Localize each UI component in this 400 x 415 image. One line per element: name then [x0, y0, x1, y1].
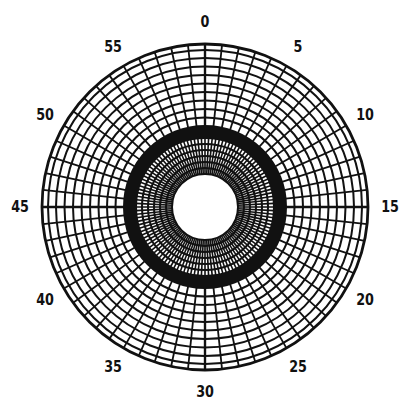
- inner-ring: [160, 162, 250, 252]
- outer-spoke: [188, 288, 197, 370]
- outer-spoke: [188, 45, 197, 127]
- outer-spoke: [286, 215, 368, 224]
- inner-ring: [166, 168, 244, 246]
- outer-spoke: [43, 190, 125, 199]
- outer-spoke: [213, 45, 222, 127]
- minute-label-40: 40: [36, 292, 54, 307]
- outer-spoke: [43, 215, 125, 224]
- polar-grid: [0, 0, 400, 415]
- minute-label-20: 20: [356, 292, 374, 307]
- minute-label-30: 30: [196, 385, 214, 400]
- inner-ring: [172, 174, 238, 240]
- minute-label-5: 5: [293, 39, 302, 54]
- minute-label-0: 0: [201, 15, 210, 30]
- minute-label-50: 50: [36, 107, 54, 122]
- outer-spoke: [213, 288, 222, 370]
- minute-label-25: 25: [289, 360, 307, 375]
- minute-label-55: 55: [104, 39, 122, 54]
- polar-grid-diagram: 0510152025303540455055: [0, 0, 400, 415]
- minute-label-35: 35: [104, 360, 122, 375]
- minute-label-15: 15: [381, 200, 399, 215]
- minute-label-45: 45: [11, 200, 29, 215]
- minute-label-10: 10: [356, 107, 374, 122]
- outer-spoke: [286, 190, 368, 199]
